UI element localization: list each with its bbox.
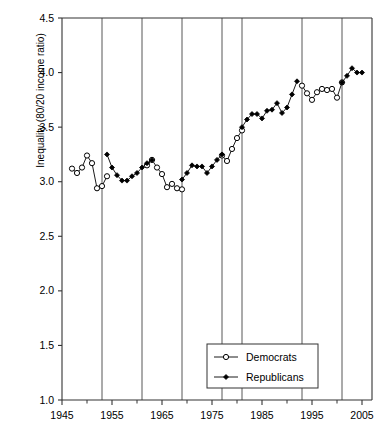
data-point-open-circle bbox=[324, 87, 329, 92]
data-point-open-circle bbox=[94, 186, 99, 191]
series-republicans bbox=[105, 66, 365, 183]
data-point-filled-diamond bbox=[195, 164, 200, 169]
data-point-open-circle bbox=[104, 174, 109, 179]
data-point-open-circle bbox=[159, 171, 164, 176]
data-point-open-circle bbox=[314, 90, 319, 95]
series-line-segment bbox=[222, 130, 242, 161]
data-point-open-circle bbox=[74, 170, 79, 175]
data-point-open-circle bbox=[304, 91, 309, 96]
data-point-open-circle bbox=[334, 95, 339, 100]
data-point-open-circle bbox=[69, 166, 74, 171]
data-point-open-circle bbox=[329, 86, 334, 91]
data-point-open-circle bbox=[309, 97, 314, 102]
data-point-open-circle bbox=[319, 86, 324, 91]
data-point-open-circle bbox=[99, 183, 104, 188]
y-tick-label: 2.5 bbox=[39, 230, 54, 242]
x-tick-label: 2005 bbox=[350, 409, 374, 421]
data-point-open-circle bbox=[89, 161, 94, 166]
data-point-open-circle bbox=[164, 185, 169, 190]
data-point-open-circle bbox=[154, 165, 159, 170]
data-point-filled-diamond bbox=[105, 152, 110, 157]
inequality-line-chart: 1.01.52.02.53.03.54.04.5 194519551965197… bbox=[0, 0, 384, 440]
data-point-filled-diamond bbox=[190, 163, 195, 168]
x-tick-label: 1955 bbox=[100, 409, 124, 421]
chart-legend: DemocratsRepublicans bbox=[207, 344, 318, 388]
y-tick-label: 2.0 bbox=[39, 284, 54, 296]
data-point-filled-diamond bbox=[290, 92, 295, 97]
data-point-open-circle bbox=[299, 83, 304, 88]
y-tick-label: 1.0 bbox=[39, 394, 54, 406]
data-point-open-circle bbox=[224, 158, 229, 163]
data-point-filled-diamond bbox=[265, 108, 270, 113]
data-point-filled-diamond bbox=[110, 165, 115, 170]
data-point-open-circle bbox=[229, 146, 234, 151]
data-point-open-circle bbox=[179, 187, 184, 192]
data-point-open-circle bbox=[234, 135, 239, 140]
data-point-open-circle bbox=[79, 165, 84, 170]
administration-gridlines bbox=[102, 18, 342, 400]
data-point-filled-diamond bbox=[360, 70, 365, 75]
data-point-open-circle bbox=[223, 354, 228, 359]
x-tick-label: 1945 bbox=[50, 409, 74, 421]
chart-figure: 1.01.52.02.53.03.54.04.5 194519551965197… bbox=[0, 0, 384, 440]
data-point-filled-diamond bbox=[295, 79, 300, 84]
data-point-open-circle bbox=[174, 186, 179, 191]
legend-label-democrats: Democrats bbox=[246, 351, 297, 363]
legend-label-republicans: Republicans bbox=[246, 371, 304, 383]
data-point-open-circle bbox=[169, 181, 174, 186]
x-tick-label: 1995 bbox=[300, 409, 324, 421]
x-tick-label: 1985 bbox=[250, 409, 274, 421]
data-point-open-circle bbox=[84, 153, 89, 158]
x-tick-label: 1975 bbox=[200, 409, 224, 421]
x-axis-ticks: 1945195519651975198519952005 bbox=[50, 400, 374, 421]
chart-axes bbox=[62, 18, 372, 400]
y-axis-title: Inequality (80/20 income ratio) bbox=[35, 1, 46, 201]
x-tick-label: 1965 bbox=[150, 409, 174, 421]
series-line-segment bbox=[242, 81, 297, 127]
y-tick-label: 1.5 bbox=[39, 339, 54, 351]
